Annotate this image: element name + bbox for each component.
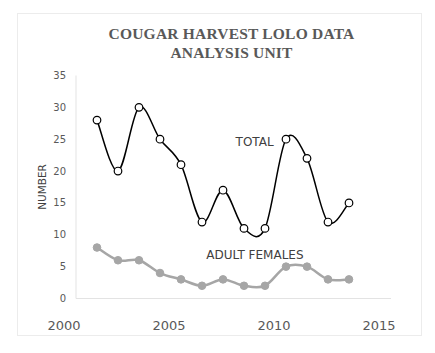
data-point-total [114,167,122,175]
series-annotation: ADULT FEMALES [206,248,303,262]
series-line-total [97,107,349,237]
data-point-adult-females [219,276,227,284]
series-annotation: TOTAL [235,135,274,149]
data-point-adult-females [303,263,311,271]
data-point-total [261,225,269,233]
data-point-total [93,116,101,124]
y-tick-label: 25 [53,134,66,145]
y-tick-label: 35 [53,70,66,81]
data-point-total [177,161,185,169]
x-tick-label: 2010 [257,318,290,333]
x-tick-label: 2005 [152,318,185,333]
x-tick-label: 2015 [362,318,395,333]
y-tick-label: 0 [60,293,66,304]
data-point-total [219,186,227,194]
data-point-adult-females [93,244,101,252]
data-point-total [135,104,143,112]
data-point-adult-females [324,276,332,284]
line-chart: 051015202530352000200520102015NUMBERTOTA… [0,0,435,353]
x-tick-label: 2000 [47,318,80,333]
data-point-adult-females [177,276,185,284]
data-point-adult-females [282,263,290,271]
data-point-total [156,135,164,143]
data-point-adult-females [156,269,164,277]
data-point-adult-females [345,276,353,284]
data-point-adult-females [240,282,248,290]
data-point-adult-females [198,282,206,290]
data-point-total [324,218,332,226]
data-point-total [303,155,311,163]
y-tick-label: 20 [53,166,66,177]
data-point-adult-females [261,282,269,290]
y-tick-label: 10 [53,229,66,240]
y-tick-label: 15 [53,197,66,208]
y-axis-label: NUMBER [36,164,48,210]
data-point-total [198,218,206,226]
data-point-total [282,135,290,143]
y-tick-label: 5 [60,261,66,272]
data-point-total [240,225,248,233]
y-tick-label: 30 [53,102,66,113]
data-point-total [345,199,353,207]
data-point-adult-females [135,256,143,264]
data-point-adult-females [114,256,122,264]
